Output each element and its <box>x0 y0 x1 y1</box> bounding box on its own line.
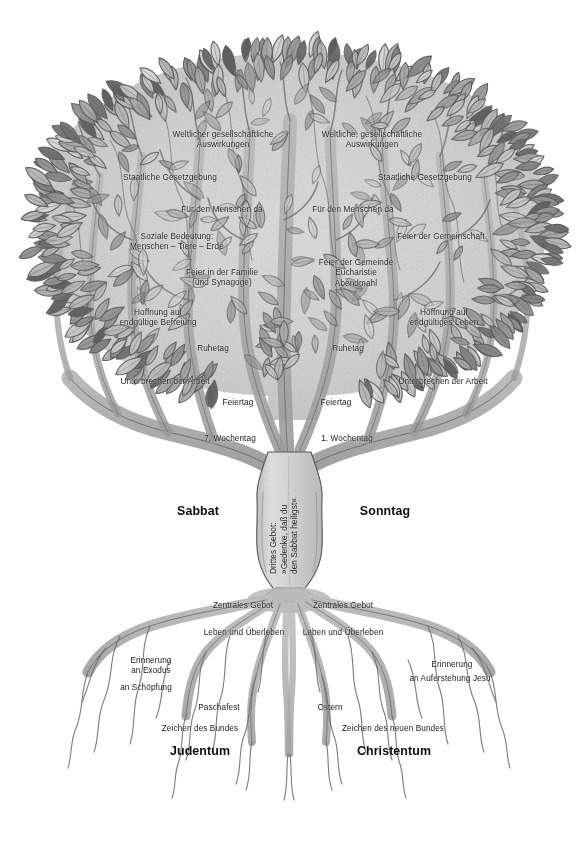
tree-illustration <box>0 0 586 843</box>
tree-diagram-figure: Weltlicher gesellschaftliche Auswirkunge… <box>0 0 586 843</box>
trunk-text-line-1: Drittes Gebot: <box>268 522 278 574</box>
root-network <box>68 600 510 800</box>
trunk-text-line-3: den Sabbat heiligst« <box>289 498 299 574</box>
trunk-text-line-2: »Gedenke, daß du <box>279 505 289 574</box>
